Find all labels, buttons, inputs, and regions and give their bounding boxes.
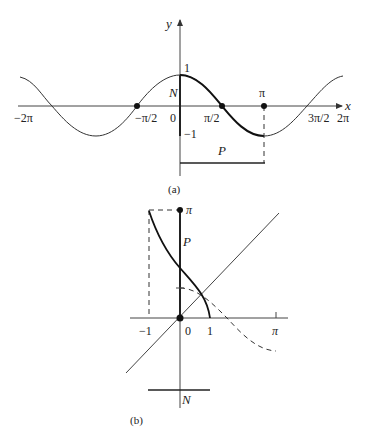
tick-three-half-pi: 3π/2 (308, 111, 329, 125)
y-axis-label: y (164, 16, 172, 31)
label-n: N (168, 85, 179, 100)
b-tick-zero: 0 (185, 324, 191, 338)
tick-two-pi: 2π (337, 111, 349, 125)
tick-zero: 0 (170, 111, 176, 125)
tick-one: 1 (184, 61, 190, 75)
b-point-origin (177, 315, 184, 322)
cos-dashed-curve (180, 288, 276, 351)
point-neg-half-pi (134, 103, 140, 109)
point-half-pi (219, 103, 225, 109)
tick-neg-one: −1 (184, 127, 197, 141)
tick-neg-half-pi: −π/2 (135, 111, 157, 125)
b-tick-neg-one: −1 (139, 324, 152, 338)
tick-neg-two-pi: −2π (14, 111, 33, 125)
label-p: P (217, 143, 226, 158)
tick-pi: π (259, 86, 265, 100)
point-pi (261, 103, 267, 109)
b-label-n: N (181, 392, 192, 407)
b-point-top (177, 207, 183, 213)
b-tick-one: 1 (207, 324, 213, 338)
caption-b: (b) (130, 414, 143, 427)
b-tick-pi-x: π (272, 324, 279, 338)
diagram-canvas: y x 1 −1 N P −2π −π/2 0 π/2 π 3π/2 2π (a… (0, 0, 366, 440)
figure-b: π P −1 0 1 π N (b) (126, 203, 288, 427)
figure-a: y x 1 −1 N P −2π −π/2 0 π/2 π 3π/2 2π (a… (14, 16, 351, 196)
caption-a: (a) (168, 183, 181, 196)
b-label-p: P (182, 234, 191, 249)
tick-half-pi: π/2 (204, 111, 219, 125)
b-tick-pi-y: π (186, 203, 193, 217)
